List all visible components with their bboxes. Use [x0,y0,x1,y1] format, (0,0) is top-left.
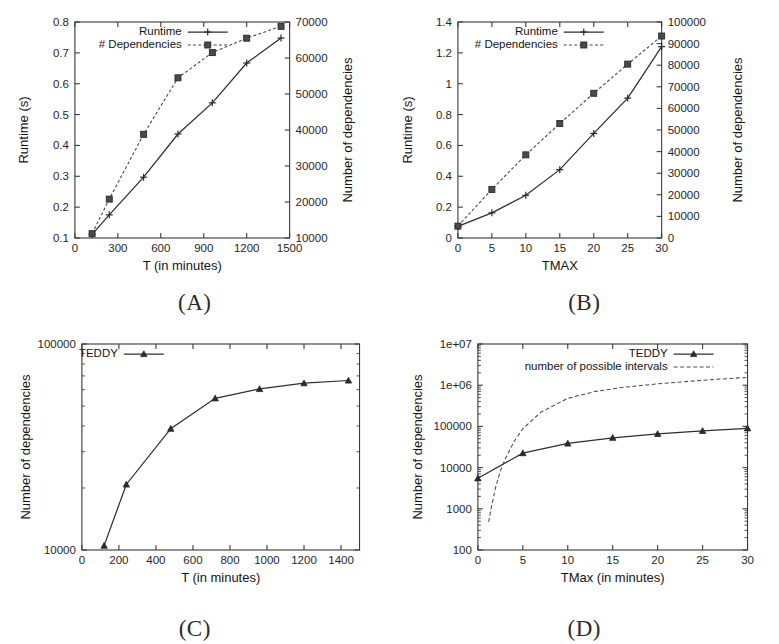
y-axis-label: Runtime (s) [16,96,31,163]
y2-tick-label: 70000 [667,81,699,93]
chart-c-svg: 020040060080010001200140010000100000T (i… [0,322,390,604]
panel-c-plot: 020040060080010001200140010000100000T (i… [0,322,390,604]
x-tick-label: 20 [587,242,600,254]
x-tick-label: 10 [561,554,574,566]
y2-tick-label: 50000 [296,88,328,100]
panel-a-caption: (A) [0,290,390,316]
chart-c-content: 020040060080010001200140010000100000T (i… [18,338,360,585]
chart-d-svg: 0510152025301001000100001000001e+061e+07… [390,322,779,604]
panel-b-plot: 05101520253000.20.40.60.811.21.401000020… [390,0,779,282]
data-point [168,426,174,432]
y2-tick-label: 60000 [296,52,328,64]
data-point [141,131,147,137]
data-point [209,50,215,56]
legend-label-0: TEDDY [79,347,118,359]
y-tick-label: 0.4 [435,170,452,182]
data-point [624,61,630,67]
panel-d-caption: (D) [390,616,779,642]
panel-c: 020040060080010001200140010000100000T (i… [0,322,390,644]
x-tick-label: 1000 [254,554,280,566]
panel-c-caption: (C) [0,616,390,642]
series-line-0 [92,38,281,234]
x-tick-label: 25 [696,554,709,566]
y-tick-label: 1000 [446,503,472,515]
y2-tick-label: 30000 [296,160,328,172]
x-tick-label: 800 [220,554,239,566]
x-axis-label: TMax (in minutes) [560,570,664,585]
data-point [175,75,181,81]
x-tick-label: 15 [553,242,566,254]
legend-marker-1 [205,42,211,48]
data-point [522,152,528,158]
y-tick-label: 1.2 [435,47,451,59]
data-point [488,186,494,192]
y2-tick-label: 90000 [667,38,699,50]
y-tick-label: 0.2 [435,201,451,213]
y-tick-label: 0.7 [53,47,69,59]
x-tick-label: 5 [519,554,525,566]
series-line-0 [457,47,661,227]
x-axis-label: T (in minutes) [181,570,260,585]
chart-d-content: 0510152025301001000100001000001e+061e+07… [409,338,753,585]
legend-label-0: TEDDY [628,347,667,359]
y-tick-label: 100000 [433,420,471,432]
plot-frame [477,344,747,550]
y2-tick-label: 80000 [667,59,699,71]
panel-d-plot: 0510152025301001000100001000001e+061e+07… [390,322,779,604]
data-point [244,35,250,41]
y-tick-label: 0.8 [435,109,451,121]
panel-b-caption: (B) [390,290,779,316]
x-tick-label: 1200 [234,242,260,254]
y2-tick-label: 40000 [296,124,328,136]
x-axis-label: TMAX [541,258,577,273]
y2-tick-label: 30000 [667,167,699,179]
x-axis-label: T (in minutes) [143,258,222,273]
x-tick-label: 0 [79,554,85,566]
x-tick-label: 30 [655,242,668,254]
y-axis-label: Number of dependencies [409,374,424,520]
data-point [556,121,562,127]
y-tick-label: 0.4 [53,139,70,151]
legend-label-1: # Dependencies [99,38,182,50]
panel-a-plot: 0300600900120015000.10.20.30.40.50.60.70… [0,0,390,282]
data-point [101,542,107,548]
y-axis-label: Runtime (s) [399,96,414,163]
data-point [454,223,460,229]
series-line-1 [488,377,747,522]
x-tick-label: 20 [651,554,664,566]
legend-label-0: Runtime [139,25,182,37]
x-tick-label: 30 [741,554,754,566]
y-tick-label: 1e+07 [439,338,471,350]
x-tick-label: 600 [151,242,170,254]
y-tick-label: 1e+06 [439,379,471,391]
y-tick-label: 0 [445,232,451,244]
x-tick-label: 600 [183,554,202,566]
y2-axis-label: Number of dependencies [340,57,355,203]
x-tick-label: 15 [606,554,619,566]
data-point [474,475,480,481]
chart-b-content: 05101520253000.20.40.60.811.21.401000020… [399,16,744,273]
x-tick-label: 200 [109,554,128,566]
y-tick-label: 0.2 [53,201,69,213]
x-tick-label: 0 [454,242,460,254]
y2-tick-label: 70000 [296,16,328,28]
y2-tick-label: 40000 [667,146,699,158]
y-tick-label: 10000 [44,544,76,556]
x-tick-label: 10 [519,242,532,254]
y-axis-label: Number of dependencies [18,374,33,520]
plot-frame [82,344,360,550]
y-tick-label: 1.4 [435,16,452,28]
y2-tick-label: 10000 [667,210,699,222]
data-point [89,231,95,237]
x-tick-label: 25 [621,242,634,254]
x-tick-label: 0 [474,554,480,566]
y2-tick-label: 60000 [667,102,699,114]
y2-tick-label: 10000 [296,232,328,244]
figure-grid: 0300600900120015000.10.20.30.40.50.60.70… [0,0,779,644]
y-tick-label: 0.8 [53,16,69,28]
chart-a-svg: 0300600900120015000.10.20.30.40.50.60.70… [0,0,390,282]
y2-tick-label: 20000 [296,196,328,208]
data-point [278,23,284,29]
x-tick-label: 5 [488,242,494,254]
y2-tick-label: 100000 [667,16,705,28]
